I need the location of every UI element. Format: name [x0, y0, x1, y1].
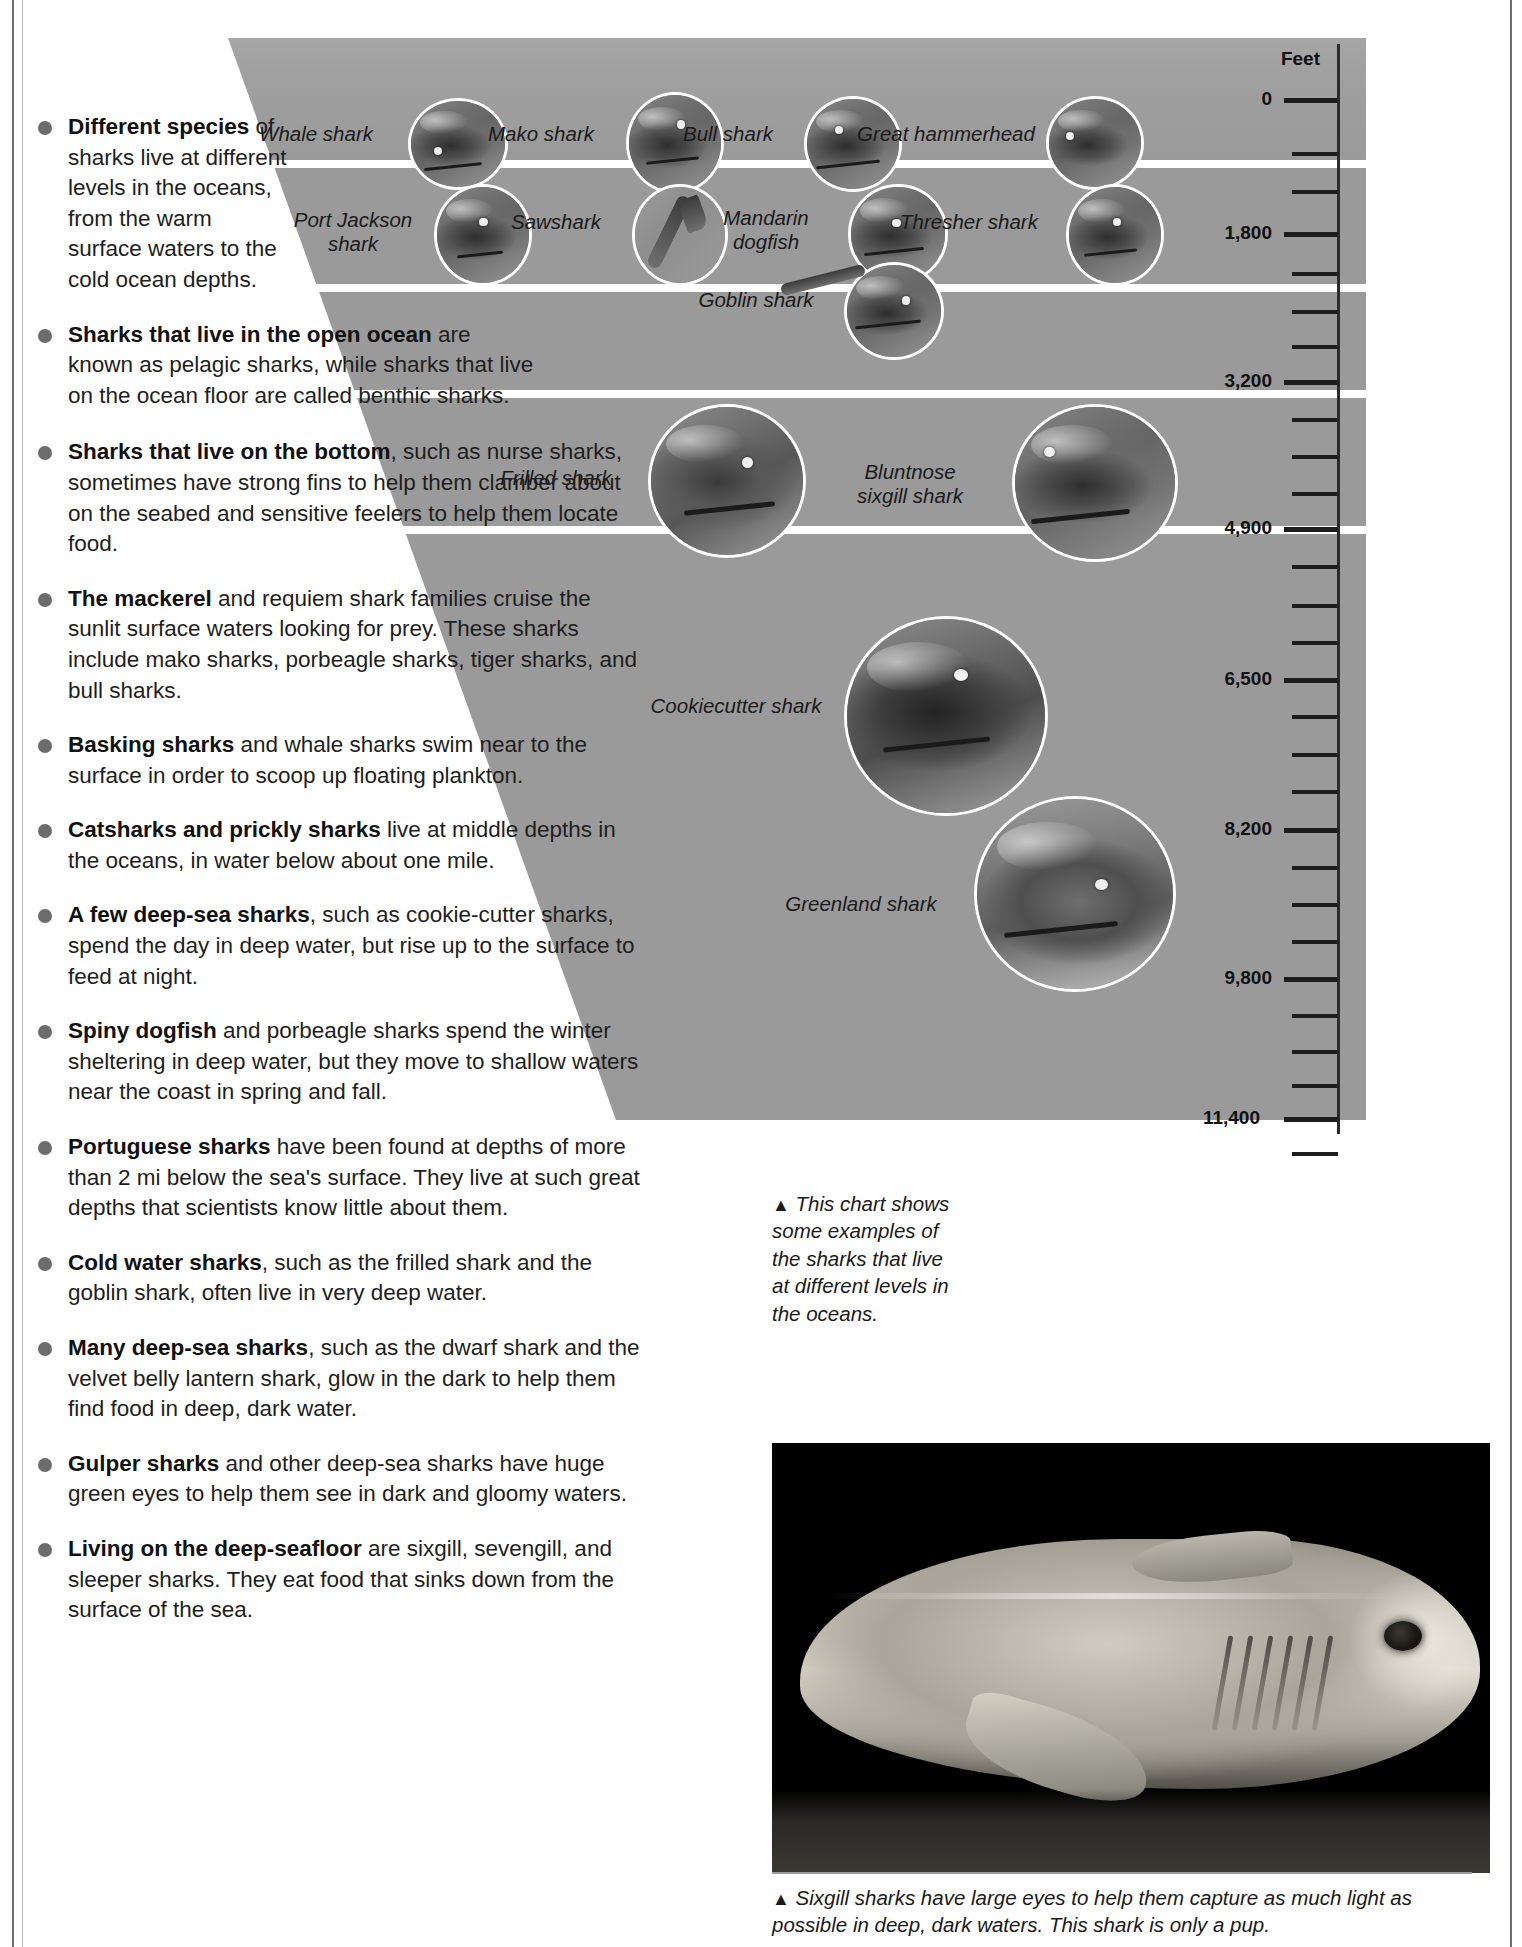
bullet-lead: Living on the deep-seafloor: [68, 1536, 362, 1561]
axis-title: Feet: [1200, 48, 1320, 70]
page-rule-left-thin: [22, 0, 23, 1947]
axis-tick-minor: [1292, 903, 1338, 907]
shark-thumbnail: [648, 404, 806, 558]
axis-tick-label: 0: [1152, 88, 1272, 110]
photo-seafloor: [772, 1789, 1490, 1873]
bullet-dot-icon: [38, 1141, 52, 1155]
bullet-dot-icon: [38, 1342, 52, 1356]
page-rule-right: [1510, 0, 1512, 1947]
bullet-item: Cold water sharks, such as the frilled s…: [34, 1248, 648, 1309]
bullet-item: Basking sharks and whale sharks swim nea…: [34, 730, 648, 791]
bullet-dot-icon: [38, 1543, 52, 1557]
bullet-dot-icon: [38, 329, 52, 343]
bullet-lead: Basking sharks: [68, 732, 234, 757]
axis-tick-minor: [1292, 565, 1338, 569]
bullet-item: Sharks that live in the open ocean are k…: [34, 320, 538, 412]
axis-tick-major: [1284, 1117, 1338, 1122]
axis-tick-major: [1284, 98, 1338, 103]
shark-label: Cookiecutter shark: [636, 694, 836, 718]
axis-tick-minor: [1292, 418, 1338, 422]
axis-tick-label: 1,800: [1152, 222, 1272, 244]
chart-caption-text: This chart shows some examples of the sh…: [772, 1192, 949, 1325]
bullet-item: Living on the deep-seafloor are sixgill,…: [34, 1534, 648, 1626]
bullet-item: Different species of sharks live at diff…: [34, 112, 288, 296]
bullet-lead: Portuguese sharks: [68, 1134, 271, 1159]
shark-thumbnail: [1066, 184, 1164, 286]
shark-label: Bull shark: [654, 122, 802, 146]
bullet-item: A few deep-sea sharks, such as cookie-cu…: [34, 900, 648, 992]
bullet-lead: Catsharks and prickly sharks: [68, 817, 381, 842]
axis-tick-minor: [1292, 345, 1338, 349]
bullet-item: Portuguese sharks have been found at dep…: [34, 1132, 648, 1224]
photo-light-streak: [832, 1593, 1392, 1599]
bullet-lead: The mackerel: [68, 586, 212, 611]
shark-label: Mandarin dogfish: [686, 206, 846, 254]
axis-tick-label: 6,500: [1152, 668, 1272, 690]
photo-caption: ▲ Sixgill sharks have large eyes to help…: [772, 1884, 1472, 1939]
axis-tick-minor: [1292, 604, 1338, 608]
sixgill-shark-photo: [772, 1443, 1490, 1873]
axis-tick-minor: [1292, 715, 1338, 719]
bullet-dot-icon: [38, 446, 52, 460]
bullet-lead: Gulper sharks: [68, 1451, 219, 1476]
page: Whale shark Mako shark Bull shark: [0, 0, 1522, 1947]
axis-line: [1337, 44, 1340, 1134]
axis-tick-minor: [1292, 940, 1338, 944]
bullet-dot-icon: [38, 909, 52, 923]
axis-tick-label: 4,900: [1152, 517, 1272, 539]
axis-tick-minor: [1292, 152, 1338, 156]
shark-label: Greenland shark: [756, 892, 966, 916]
bullet-lead: A few deep-sea sharks: [68, 902, 310, 927]
axis-tick-label: 9,800: [1152, 967, 1272, 989]
axis-tick-major: [1284, 828, 1338, 833]
shark-thumbnail: [1046, 96, 1144, 190]
bullet-item: Many deep-sea sharks, such as the dwarf …: [34, 1333, 648, 1425]
shark-thumbnail: [974, 796, 1176, 992]
bullet-dot-icon: [38, 1025, 52, 1039]
chart-caption: ▲ This chart shows some examples of the …: [772, 1190, 957, 1327]
bullet-item: The mackerel and requiem shark families …: [34, 584, 648, 706]
triangle-up-icon: ▲: [772, 1195, 790, 1215]
shark-label: Great hammerhead: [846, 122, 1046, 146]
bullet-item: Sharks that live on the bottom, such as …: [34, 437, 628, 559]
axis-tick-major: [1284, 527, 1338, 532]
axis-tick-minor: [1292, 641, 1338, 645]
axis-tick-minor: [1292, 753, 1338, 757]
axis-tick-minor: [1292, 790, 1338, 794]
photo-gill-slits: [1220, 1635, 1340, 1731]
bullet-dot-icon: [38, 1458, 52, 1472]
axis-tick-major: [1284, 678, 1338, 683]
axis-tick-minor: [1292, 310, 1338, 314]
bullet-rest: of sharks live at different levels in th…: [68, 114, 286, 292]
photo-caption-text: Sixgill sharks have large eyes to help t…: [772, 1886, 1412, 1936]
shark-label: Bluntnose sixgill shark: [816, 460, 1004, 508]
axis-tick-minor: [1292, 1152, 1338, 1156]
photo-shark-eye: [1384, 1621, 1422, 1651]
shark-thumbnail: [844, 616, 1048, 816]
shark-great-hammerhead: Great hammerhead: [846, 90, 1146, 182]
bullet-dot-icon: [38, 1257, 52, 1271]
axis-tick-label: 8,200: [1152, 818, 1272, 840]
axis-tick-minor: [1292, 1050, 1338, 1054]
bullet-lead: Sharks that live on the bottom: [68, 439, 391, 464]
bullet-dot-icon: [38, 824, 52, 838]
photo-shark-body: [800, 1539, 1480, 1789]
bullet-item: Catsharks and prickly sharks live at mid…: [34, 815, 648, 876]
shark-label: Goblin shark: [676, 288, 836, 312]
bullet-dot-icon: [38, 121, 52, 135]
axis-tick-label: 3,200: [1152, 370, 1272, 392]
bullet-lead: Sharks that live in the open ocean: [68, 322, 432, 347]
axis-tick-minor: [1292, 1084, 1338, 1088]
axis-tick-major: [1284, 977, 1338, 982]
axis-tick-minor: [1292, 455, 1338, 459]
axis-tick-minor: [1292, 866, 1338, 870]
axis-tick-minor: [1292, 1014, 1338, 1018]
page-rule-left: [12, 0, 14, 1947]
article-body: Different species of sharks live at diff…: [34, 112, 634, 1650]
axis-tick-major: [1284, 232, 1338, 237]
bullet-lead: Spiny dogfish: [68, 1018, 217, 1043]
axis-tick-minor: [1292, 272, 1338, 276]
axis-tick-minor: [1292, 190, 1338, 194]
bullet-item: Gulper sharks and other deep-sea sharks …: [34, 1449, 648, 1510]
bullet-item: Spiny dogfish and porbeagle sharks spend…: [34, 1016, 648, 1108]
